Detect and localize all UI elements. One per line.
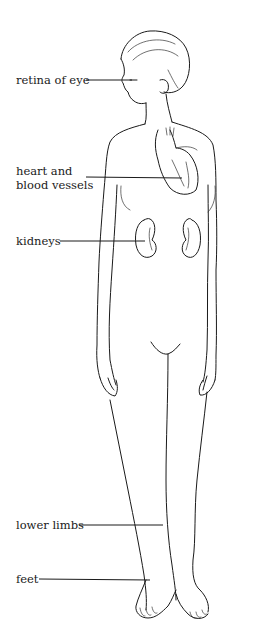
- foot-right: [176, 594, 208, 619]
- heart-organ: [155, 130, 198, 194]
- arm-inner-right: [203, 185, 208, 382]
- label-lower-limbs: lower limbs: [16, 518, 84, 532]
- label-feet: feet: [16, 572, 39, 586]
- face-profile: [121, 59, 146, 104]
- torso-outline-right: [172, 122, 217, 380]
- diagram-figure: retina of eye heart and blood vessels ki…: [0, 0, 257, 634]
- label-heart-line1: heart and: [16, 164, 72, 178]
- label-heart-line2: blood vessels: [16, 178, 93, 192]
- leader-heart: [86, 177, 182, 178]
- ear: [160, 79, 168, 93]
- toes-left: [140, 607, 157, 616]
- label-retina-of-eye: retina of eye: [16, 73, 89, 87]
- leg-right-outer: [193, 392, 209, 612]
- label-kidneys: kidneys: [16, 234, 61, 248]
- kidney-right-pelvis: [186, 228, 189, 250]
- arm-inner-left: [109, 185, 117, 385]
- kidney-left: [135, 219, 156, 258]
- kidney-left-pelvis: [149, 228, 152, 250]
- foot-left: [136, 580, 176, 618]
- neck: [145, 94, 172, 124]
- breast-left: [121, 186, 130, 210]
- groin: [151, 342, 180, 354]
- body-drawing: [0, 0, 257, 634]
- hair-strands: [128, 40, 178, 88]
- leg-left-outer: [110, 400, 146, 610]
- leader-feet: [39, 579, 150, 580]
- leg-inner-divider: [166, 354, 176, 600]
- kidney-right: [182, 219, 200, 258]
- breast-right: [208, 186, 215, 212]
